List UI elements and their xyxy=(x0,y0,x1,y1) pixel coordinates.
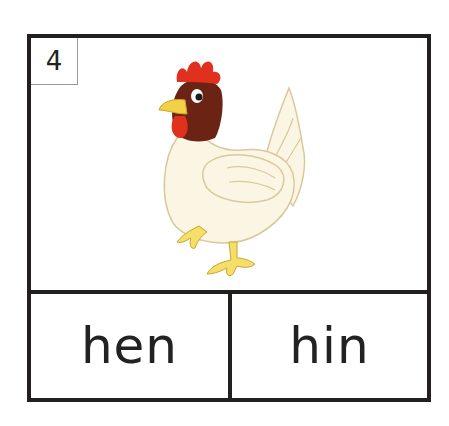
choice-hen[interactable]: hen xyxy=(31,294,228,398)
hen-icon xyxy=(31,38,427,290)
phonics-card: 4 hen hin xyxy=(27,34,431,402)
choice-hin[interactable]: hin xyxy=(232,294,427,398)
card-number: 4 xyxy=(31,38,78,85)
picture-area xyxy=(31,38,427,290)
